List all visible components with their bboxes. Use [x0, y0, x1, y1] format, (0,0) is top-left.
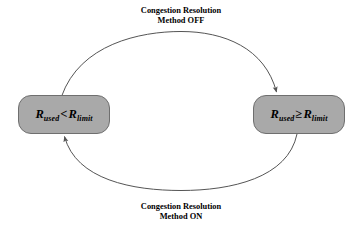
state-label-below-limit: Rused<Rlimit: [35, 107, 92, 122]
state-node-at-or-above-limit[interactable]: Rused≥Rlimit: [253, 95, 345, 134]
state-symbol-r-right: R: [69, 107, 77, 121]
transition-label-bottom-line2: Method ON: [0, 212, 362, 222]
state-label-at-or-above-limit: Rused≥Rlimit: [271, 107, 328, 122]
state-subscript-limit-left: limit: [77, 114, 93, 123]
state-subscript-used-right: used: [279, 114, 295, 123]
state-symbol-r-right-2: R: [303, 107, 311, 121]
state-transition-diagram: Rused<Rlimit Rused≥Rlimit Congestion Res…: [0, 0, 362, 231]
state-symbol-r-left: R: [35, 107, 43, 121]
state-subscript-used-left: used: [44, 114, 60, 123]
transition-label-bottom-line1: Congestion Resolution: [0, 202, 362, 212]
transition-label-top: Congestion Resolution Method OFF: [0, 6, 362, 26]
state-symbol-r-left-2: R: [271, 107, 279, 121]
transition-label-top-line2: Method OFF: [0, 16, 362, 26]
transition-arrow-top: [62, 32, 277, 97]
state-subscript-limit-right: limit: [312, 114, 328, 123]
transition-label-bottom: Congestion Resolution Method ON: [0, 202, 362, 222]
state-operator-less-than: <: [59, 107, 68, 121]
state-node-below-limit[interactable]: Rused<Rlimit: [18, 95, 110, 134]
transition-label-top-line1: Congestion Resolution: [0, 6, 362, 16]
transition-arrow-bottom: [65, 134, 298, 191]
